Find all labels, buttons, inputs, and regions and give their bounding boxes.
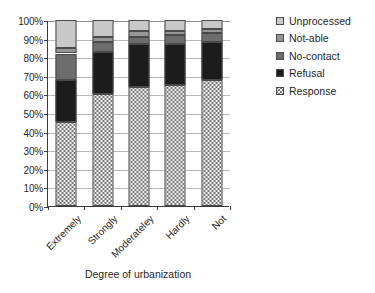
bar-segment-response[interactable] [92, 94, 113, 206]
y-axis-label: 20% [24, 164, 43, 175]
bar-segment-no-contact[interactable] [128, 37, 149, 44]
legend-swatch-icon [276, 17, 284, 25]
bar-group [84, 21, 120, 206]
stacked-bar-chart: 100%90%80%70%60%50%40%30%20%10%0%Extreme… [0, 0, 375, 293]
x-axis-tick [157, 206, 158, 210]
legend-item-label: No-contact [289, 50, 340, 62]
x-axis-tick [230, 206, 231, 210]
bar-segment-not-able[interactable] [165, 31, 186, 35]
x-axis-tick [194, 206, 195, 210]
y-axis-label: 100% [18, 16, 43, 27]
y-axis-label: 0% [29, 202, 43, 213]
bar-group [194, 21, 230, 206]
bar-segment-unprocessed[interactable] [92, 20, 113, 37]
bar-segment-refusal[interactable] [92, 52, 113, 95]
bar-segment-unprocessed[interactable] [128, 20, 149, 31]
legend-swatch-icon [276, 52, 284, 60]
y-axis-label: 30% [24, 146, 43, 157]
stacked-bar[interactable] [128, 21, 149, 206]
bar-segment-response[interactable] [201, 80, 222, 206]
bar-group [48, 21, 84, 206]
y-axis-label: 70% [24, 71, 43, 82]
bar-segment-unprocessed[interactable] [201, 20, 222, 29]
bar-segment-response[interactable] [165, 85, 186, 206]
x-axis-category-label: Not [210, 213, 229, 232]
legend-item-label: Response [289, 85, 336, 97]
bar-segment-not-able[interactable] [92, 37, 113, 43]
bar-segment-refusal[interactable] [165, 44, 186, 85]
legend-swatch-icon [276, 87, 284, 95]
bar-segment-refusal[interactable] [201, 42, 222, 79]
bar-segment-not-able[interactable] [201, 29, 222, 33]
x-axis-tick [121, 206, 122, 210]
stacked-bar[interactable] [201, 21, 222, 206]
x-axis-tick [84, 206, 85, 210]
bar-segment-unprocessed[interactable] [56, 20, 77, 48]
y-axis-label: 50% [24, 109, 43, 120]
y-axis-label: 60% [24, 90, 43, 101]
legend-item-label: Not-able [289, 32, 329, 44]
bar-segment-no-contact[interactable] [201, 33, 222, 42]
x-axis-category-label: Hardly [164, 213, 192, 241]
legend-item-label: Refusal [289, 67, 325, 79]
x-axis-title: Degree of urbanization [47, 268, 229, 280]
bar-segment-no-contact[interactable] [56, 54, 77, 80]
bar-segment-no-contact[interactable] [92, 42, 113, 51]
y-axis-label: 40% [24, 127, 43, 138]
stacked-bar[interactable] [56, 21, 77, 206]
bar-segment-refusal[interactable] [56, 80, 77, 123]
legend-item[interactable]: No-contact [276, 47, 372, 65]
chart-legend: UnprocessedNot-ableNo-contactRefusalResp… [276, 12, 372, 100]
y-axis-label: 10% [24, 183, 43, 194]
y-axis-label: 90% [24, 34, 43, 45]
bar-group [121, 21, 157, 206]
legend-swatch-icon [276, 69, 284, 77]
bar-segment-not-able[interactable] [128, 31, 149, 37]
stacked-bar[interactable] [165, 21, 186, 206]
bar-segment-not-able[interactable] [56, 48, 77, 54]
x-axis-category-label: Extremely [44, 213, 83, 252]
x-axis-category-label: Strongly [86, 213, 120, 247]
plot-area: 100%90%80%70%60%50%40%30%20%10%0%Extreme… [47, 21, 229, 207]
bar-segment-response[interactable] [128, 87, 149, 206]
bar-segment-no-contact[interactable] [165, 35, 186, 44]
stacked-bar[interactable] [92, 21, 113, 206]
legend-item[interactable]: Unprocessed [276, 12, 372, 30]
bar-segment-response[interactable] [56, 122, 77, 206]
bar-segment-unprocessed[interactable] [165, 20, 186, 31]
bar-segment-refusal[interactable] [128, 44, 149, 87]
legend-item[interactable]: Response [276, 82, 372, 100]
x-axis-tick [48, 206, 49, 210]
legend-item[interactable]: Not-able [276, 30, 372, 48]
legend-item-label: Unprocessed [289, 15, 351, 27]
legend-swatch-icon [276, 34, 284, 42]
legend-item[interactable]: Refusal [276, 65, 372, 83]
bar-group [157, 21, 193, 206]
y-axis-label: 80% [24, 53, 43, 64]
